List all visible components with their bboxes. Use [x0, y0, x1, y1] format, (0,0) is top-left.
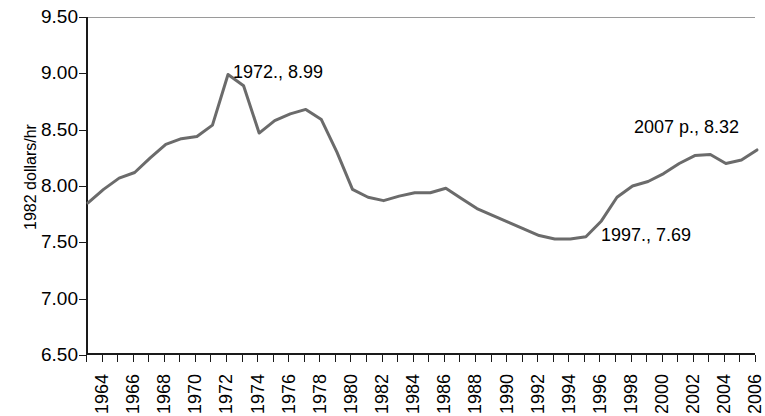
x-axis-tick-label: 1982	[373, 360, 391, 414]
x-axis-tick	[273, 355, 274, 362]
y-axis-tick	[79, 73, 86, 74]
data-point-annotation: 1972., 8.99	[233, 63, 323, 81]
x-axis-tick-label: 1968	[155, 360, 173, 414]
x-axis-tick-label: 1964	[93, 360, 111, 414]
x-axis-tick-label: 1998	[622, 360, 640, 414]
y-axis-tick	[79, 17, 86, 18]
x-axis-tick	[708, 355, 709, 362]
x-axis-tick-label: 1974	[249, 360, 267, 414]
data-point-annotation: 1997., 7.69	[601, 226, 691, 244]
x-axis-tick	[117, 355, 118, 362]
x-axis-tick	[553, 355, 554, 362]
x-axis-tick-label: 1994	[560, 360, 578, 414]
y-axis-tick-label: 9.00	[22, 63, 78, 82]
x-axis-tick-label: 1978	[311, 360, 329, 414]
data-point-annotation: 2007 p., 8.32	[634, 118, 739, 136]
x-axis-tick-label: 2002	[684, 360, 702, 414]
x-axis-tick	[428, 355, 429, 362]
x-axis-tick	[646, 355, 647, 362]
plot-area	[86, 17, 755, 355]
x-axis-tick-label: 2004	[715, 360, 733, 414]
x-axis-tick-label: 2006	[746, 360, 764, 414]
x-axis-tick-label: 2000	[653, 360, 671, 414]
y-axis-tick	[79, 299, 86, 300]
x-axis-tick	[304, 355, 305, 362]
x-axis-tick	[739, 355, 740, 362]
x-axis-tick-label: 1976	[280, 360, 298, 414]
y-axis-tick-label-group: 6.507.007.508.008.509.009.50	[22, 0, 78, 416]
x-axis-tick	[459, 355, 460, 362]
y-axis-tick	[79, 186, 86, 187]
y-axis-tick	[79, 242, 86, 243]
x-axis-tick	[210, 355, 211, 362]
x-axis-tick	[148, 355, 149, 362]
x-axis-tick-label: 1990	[498, 360, 516, 414]
x-axis-tick-label: 1992	[529, 360, 547, 414]
x-axis-tick	[522, 355, 523, 362]
y-axis-tick-label: 9.50	[22, 7, 78, 26]
y-axis-tick-label: 6.50	[22, 345, 78, 364]
x-axis-tick-label: 1988	[466, 360, 484, 414]
x-axis-tick	[335, 355, 336, 362]
x-axis-tick	[677, 355, 678, 362]
y-axis-tick	[79, 355, 86, 356]
x-axis-tick	[366, 355, 367, 362]
x-axis-tick-label: 1984	[404, 360, 422, 414]
x-axis-tick-label: 1980	[342, 360, 360, 414]
x-axis-tick-label: 1970	[186, 360, 204, 414]
x-axis-tick-label: 1972	[217, 360, 235, 414]
x-axis-tick	[179, 355, 180, 362]
y-axis-tick-label: 8.00	[22, 176, 78, 195]
x-axis-tick-label: 1986	[435, 360, 453, 414]
y-axis-tick-label: 7.50	[22, 232, 78, 251]
y-axis-tick-label: 7.00	[22, 289, 78, 308]
x-axis-tick	[397, 355, 398, 362]
x-axis-tick-label: 1996	[591, 360, 609, 414]
x-axis-tick-label-group: 1964196619681970197219741976197819801982…	[86, 362, 755, 416]
data-series-line	[88, 17, 757, 355]
y-axis-tick-label: 8.50	[22, 120, 78, 139]
x-axis-tick	[242, 355, 243, 362]
x-axis-tick	[491, 355, 492, 362]
x-axis-tick-label: 1966	[124, 360, 142, 414]
x-axis-tick	[86, 355, 87, 362]
x-axis-tick	[615, 355, 616, 362]
x-axis-tick	[584, 355, 585, 362]
y-axis-tick	[79, 130, 86, 131]
